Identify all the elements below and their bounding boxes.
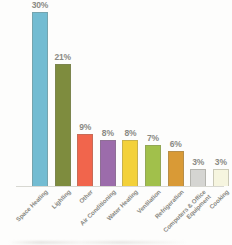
plot-area: 30%21%9%8%8%7%6%3%3% — [0, 0, 232, 190]
axis-baseline — [16, 186, 224, 187]
bar-value-label: 3% — [215, 157, 227, 167]
scan-artifact — [8, 241, 188, 244]
bar-other[interactable] — [77, 134, 93, 186]
bar-value-label: 8% — [124, 128, 136, 138]
bar-lighting[interactable] — [55, 64, 71, 186]
bar-computers-office-equipment[interactable] — [190, 169, 206, 186]
bar-value-label: 7% — [147, 133, 159, 143]
bar-chart: 30%21%9%8%8%7%6%3%3% Space HeatingLighti… — [0, 0, 232, 245]
bar-value-label: 30% — [32, 0, 48, 10]
category-label: Lighting — [50, 188, 72, 210]
bar-cooking[interactable] — [213, 169, 229, 186]
category-label: Computers & OfficeEquipment — [162, 188, 213, 239]
bar-air-conditioning[interactable] — [100, 140, 116, 186]
bar-value-label: 21% — [54, 52, 70, 62]
bar-ventilation[interactable] — [145, 145, 161, 186]
bar-value-label: 8% — [102, 128, 114, 138]
bar-value-label: 9% — [79, 122, 91, 132]
bar-value-label: 6% — [170, 139, 182, 149]
x-axis-category-labels: Space HeatingLightingOtherAir Conditioni… — [0, 188, 232, 245]
category-label: Other — [78, 188, 95, 205]
bar-water-heating[interactable] — [122, 140, 138, 186]
category-label: Space Heating — [14, 188, 49, 223]
bar-value-label: 3% — [192, 157, 204, 167]
bar-space-heating[interactable] — [32, 12, 48, 186]
bar-refrigeration[interactable] — [168, 151, 184, 186]
